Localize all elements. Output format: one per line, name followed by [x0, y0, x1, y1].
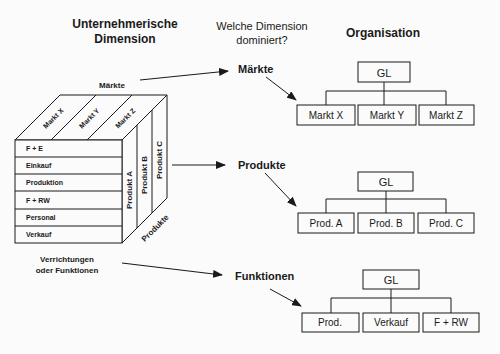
front-row-label: Personal	[26, 214, 56, 221]
front-row-label: F + RW	[26, 197, 50, 204]
front-row-label: Verkauf	[26, 231, 52, 238]
header-question-line1: Welche Dimension	[216, 20, 308, 32]
diagram-svg: Unternehmerische Dimension Welche Dimens…	[0, 0, 500, 354]
org-root-label: GL	[377, 67, 392, 79]
org-child-label: Prod.	[318, 317, 342, 328]
front-row-label: Einkauf	[26, 162, 52, 169]
arrow-to-org-funktionen	[270, 289, 301, 306]
header-organisation: Organisation	[346, 26, 420, 40]
org-root-label: GL	[379, 176, 394, 188]
right-face-label: Produkt A	[125, 171, 134, 209]
header-dimension-line1: Unternehmerische	[72, 17, 178, 31]
outcome-label-produkte: Produkte	[238, 159, 286, 171]
org-root-label: GL	[384, 274, 399, 286]
axis-label-functions-line1: Verrichtungen	[40, 255, 94, 264]
org-child-label: Verkauf	[374, 317, 408, 328]
arrow-to-org-maerkte	[266, 77, 296, 100]
diagram-canvas: Unternehmerische Dimension Welche Dimens…	[0, 0, 500, 354]
front-row-label: Produktion	[26, 179, 63, 186]
right-face-label: Produkt B	[140, 156, 149, 194]
arrow-to-maerkte	[140, 71, 228, 80]
arrow-to-funktionen	[122, 263, 222, 275]
org-child-label: Prod. C	[429, 218, 463, 229]
axis-label-maerkte: Märkte	[99, 81, 125, 90]
outcome-label-maerkte: Märkte	[238, 63, 273, 75]
org-child-label: Markt Y	[370, 110, 405, 121]
org-child-label: Markt X	[309, 110, 344, 121]
org-child-label: Prod. B	[369, 218, 403, 229]
org-child-label: Markt Z	[429, 110, 463, 121]
arrow-to-org-produkte	[265, 173, 296, 206]
front-row-label: F + E	[26, 145, 43, 152]
right-face-label: Produkt C	[155, 141, 164, 179]
outcome-label-funktionen: Funktionen	[235, 270, 295, 282]
org-child-label: Prod. A	[310, 218, 343, 229]
axis-label-functions-line2: oder Funktionen	[36, 266, 99, 275]
org-child-label: F + RW	[434, 317, 469, 328]
header-dimension-line2: Dimension	[94, 32, 155, 46]
header-question-line2: dominiert?	[236, 34, 287, 46]
